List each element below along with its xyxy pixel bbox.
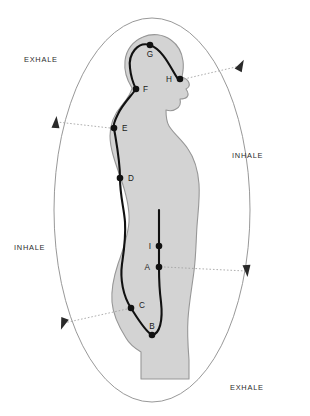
label-inhale-bottom-left: INHALE <box>14 243 45 252</box>
point-label-i: I <box>149 242 151 251</box>
label-exhale-bottom-right: EXHALE <box>230 383 264 392</box>
point-label-e: E <box>122 124 128 133</box>
figure-canvas: A B C D E F G H I EXHALE INHALE INHALE E… <box>0 0 310 416</box>
point-marker-c[interactable] <box>128 305 135 312</box>
point-label-g: G <box>147 50 153 59</box>
label-exhale-top-left: EXHALE <box>24 55 58 64</box>
leader-h-to-upper-right <box>184 66 240 79</box>
label-inhale-right: INHALE <box>232 151 263 160</box>
point-marker-g[interactable] <box>147 42 154 49</box>
point-label-h: H <box>166 75 172 84</box>
point-marker-b[interactable] <box>149 332 156 339</box>
point-label-b: B <box>149 322 155 331</box>
breath-cycle-diagram: A B C D E F G H I EXHALE INHALE INHALE E… <box>0 0 310 416</box>
point-marker-h[interactable] <box>177 76 184 83</box>
point-marker-a[interactable] <box>156 264 163 271</box>
point-label-f: F <box>143 85 148 94</box>
point-marker-f[interactable] <box>133 86 140 93</box>
point-label-a: A <box>145 263 151 272</box>
point-marker-d[interactable] <box>117 175 124 182</box>
arrow-upper-left-icon <box>51 116 60 129</box>
point-label-c: C <box>139 301 145 310</box>
arrow-lower-left-icon <box>57 317 69 331</box>
point-marker-e[interactable] <box>111 125 118 132</box>
point-label-d: D <box>128 174 134 183</box>
arrow-upper-right-icon <box>235 58 248 72</box>
point-marker-i[interactable] <box>156 243 163 250</box>
